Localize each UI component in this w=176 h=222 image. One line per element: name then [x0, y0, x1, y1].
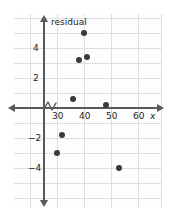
data-point — [76, 57, 82, 63]
data-point — [54, 150, 60, 156]
data-point — [59, 132, 65, 138]
data-points-layer — [0, 0, 176, 222]
data-point — [70, 96, 76, 102]
data-point — [103, 102, 109, 108]
residual-scatter-plot: residual x 4 2 −2 −4 30 40 50 60 — [0, 0, 176, 222]
data-point — [81, 30, 87, 36]
data-point — [84, 54, 90, 60]
data-point — [116, 165, 122, 171]
